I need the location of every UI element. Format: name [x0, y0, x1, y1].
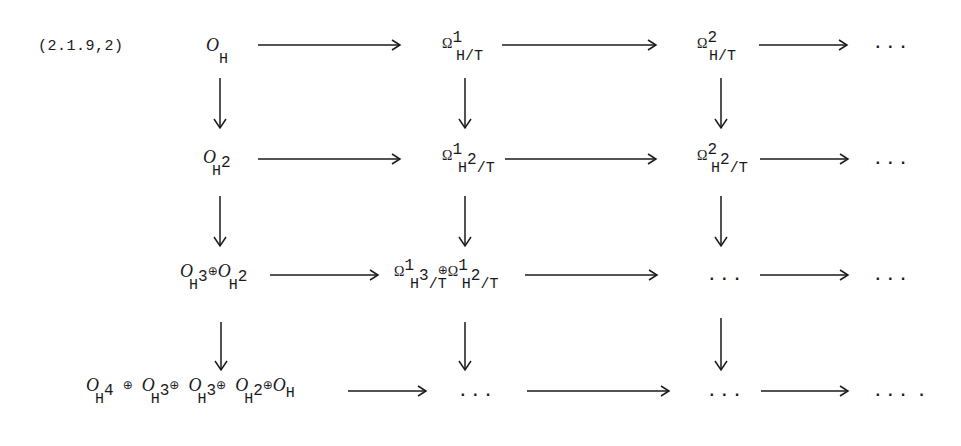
arrow-right-r1-1: [258, 38, 402, 52]
direct-sum-symbol: ⊕: [208, 264, 218, 278]
equation-number: (2.1.9,2): [38, 38, 124, 55]
arrow-right-r2-1: [258, 152, 402, 166]
arrow-down-c2-3: [458, 322, 472, 372]
node-row4-direct-sum: OH4 ⊕ OH3⊕ OH3⊕ OH2⊕OH: [86, 376, 295, 395]
arrow-right-r4-3: [761, 384, 850, 398]
ellipsis-r4c4: ....: [873, 384, 929, 400]
node-omega1-H2-T: Ω1H2/T: [442, 148, 495, 164]
direct-sum-symbol: ⊕: [123, 378, 133, 392]
node-omega2-H-T: Ω2H/T: [697, 36, 736, 52]
ellipsis-r2c4: ...: [873, 152, 911, 168]
ellipsis-r3c3: ...: [707, 268, 745, 284]
arrow-down-c3-3: [714, 318, 728, 372]
arrow-right-r1-2: [502, 38, 658, 52]
arrow-right-r2-3: [760, 152, 850, 166]
direct-sum-symbol: ⊕: [169, 378, 179, 392]
node-O-H2: OH2: [203, 148, 231, 167]
arrow-down-c3-1: [714, 78, 728, 130]
node-O-H: OH: [206, 36, 228, 55]
direct-sum-symbol: ⊕: [263, 378, 273, 392]
ellipsis-r3c4: ...: [873, 268, 911, 284]
ellipsis-r4c2: ...: [458, 384, 496, 400]
arrow-right-r1-3: [759, 38, 849, 52]
arrow-down-c1-1: [213, 78, 227, 130]
arrow-down-c2-1: [458, 78, 472, 130]
arrow-right-r2-2: [505, 152, 658, 166]
arrow-right-r3-1: [270, 268, 380, 282]
node-omega2-H2-T: Ω2H2/T: [697, 148, 748, 164]
arrow-down-c2-2: [458, 196, 472, 248]
direct-sum-symbol: ⊕: [438, 263, 448, 277]
ellipsis-r1c4: ...: [873, 36, 911, 52]
arrow-right-r3-2: [525, 268, 659, 282]
arrow-right-r4-2: [527, 384, 671, 398]
node-omega1-H3-T-plus-omega1-H2-T: Ω1H3/T ⊕Ω1H2/T: [394, 264, 498, 280]
node-O-H3-plus-O-H2: OH3⊕OH2: [180, 262, 247, 281]
arrow-down-c3-2: [714, 196, 728, 248]
node-omega1-H-T: Ω1H/T: [442, 36, 483, 52]
arrow-down-c1-3: [214, 322, 228, 372]
arrow-right-r4-1: [348, 384, 428, 398]
arrow-down-c1-2: [213, 196, 227, 248]
direct-sum-symbol: ⊕: [216, 378, 226, 392]
arrow-right-r3-3: [760, 268, 850, 282]
ellipsis-r4c3: ...: [707, 384, 745, 400]
